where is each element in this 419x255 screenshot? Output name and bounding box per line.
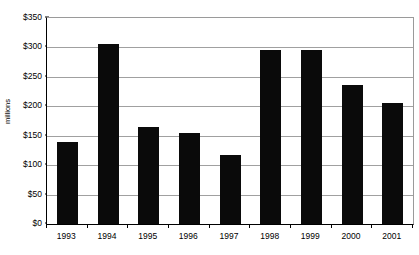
bar[interactable]	[342, 85, 363, 224]
y-axis-tick-label: $50	[28, 189, 42, 199]
x-axis-tick-mark	[412, 224, 413, 228]
y-axis-title-label: millions	[3, 99, 12, 124]
y-axis-tick-label: $0	[33, 218, 42, 228]
y-axis-tick-label: $100	[23, 159, 42, 169]
x-axis-tick-label: 2001	[382, 231, 401, 241]
x-axis-tick-label: 1999	[301, 231, 320, 241]
x-axis-tick-mark	[331, 224, 332, 228]
bar[interactable]	[301, 50, 322, 224]
y-axis-tick-label: $150	[23, 130, 42, 140]
y-axis-tick-label: $250	[23, 71, 42, 81]
bar[interactable]	[138, 127, 159, 224]
bar[interactable]	[220, 155, 241, 224]
x-axis-tick-label: 2000	[342, 231, 361, 241]
bar[interactable]	[382, 103, 403, 224]
x-axis-tick-label: 1998	[260, 231, 279, 241]
y-axis-tick-label: $350	[23, 12, 42, 22]
y-axis-tick-labels: $0$50$100$150$200$250$300$350	[12, 0, 45, 255]
y-axis-tick-label: $300	[23, 41, 42, 51]
x-axis-tick-label: 1996	[179, 231, 198, 241]
x-axis-tick-mark	[290, 224, 291, 228]
plot-inner	[47, 18, 413, 224]
bar-chart: millions $0$50$100$150$200$250$300$350 1…	[0, 0, 419, 255]
x-axis-tick-mark	[127, 224, 128, 228]
bar[interactable]	[57, 142, 78, 224]
bar[interactable]	[98, 44, 119, 224]
x-axis-tick-mark	[371, 224, 372, 228]
x-axis-tick-label: 1995	[138, 231, 157, 241]
x-axis-tick-label: 1993	[57, 231, 76, 241]
x-axis-tick-labels: 199319941995199619971998199920002001	[46, 224, 413, 255]
x-axis-tick-mark	[168, 224, 169, 228]
y-axis-tick-label: $200	[23, 100, 42, 110]
x-axis-tick-mark	[209, 224, 210, 228]
x-axis-tick-mark	[87, 224, 88, 228]
bar[interactable]	[260, 50, 281, 224]
x-axis-tick-label: 1994	[98, 231, 117, 241]
x-axis-tick-mark	[46, 224, 47, 228]
bar[interactable]	[179, 133, 200, 224]
x-axis-tick-label: 1997	[220, 231, 239, 241]
plot-area	[46, 17, 414, 225]
x-axis-tick-mark	[249, 224, 250, 228]
